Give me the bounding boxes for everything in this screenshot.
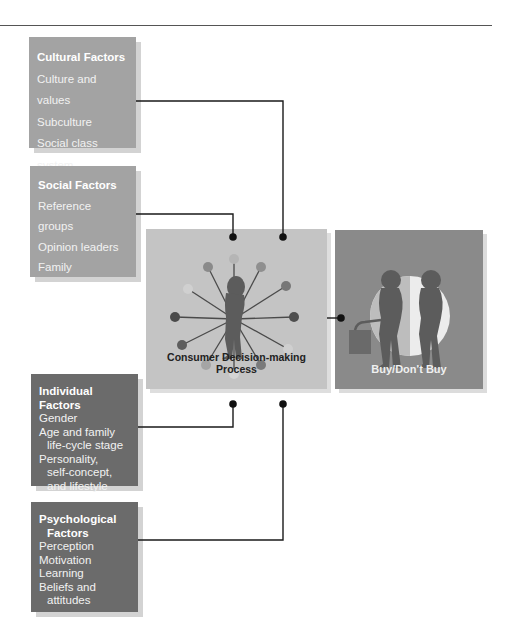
connector-lines (0, 0, 508, 642)
